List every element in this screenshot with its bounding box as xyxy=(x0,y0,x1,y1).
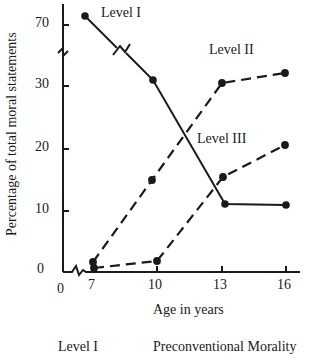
series-level-1 xyxy=(82,13,289,208)
y-tick-30: 30 xyxy=(35,76,49,92)
series-label-level-3: Level III xyxy=(197,131,246,147)
x-tick-0: 0 xyxy=(57,281,64,297)
series-level-2 xyxy=(90,70,288,265)
series-label-level-2: Level II xyxy=(209,42,254,58)
series-level-3 xyxy=(91,142,288,271)
y-tick-0: 0 xyxy=(37,261,44,277)
y-tick-20: 20 xyxy=(35,139,49,155)
x-tick-13: 13 xyxy=(213,277,227,293)
series-label-level-1: Level I xyxy=(101,5,141,21)
y-axis xyxy=(58,4,69,272)
y-tick-70: 70 xyxy=(35,15,49,31)
x-tick-7: 7 xyxy=(88,277,95,293)
y-axis-title: Percentage of total moral statements xyxy=(4,56,20,236)
x-tick-16: 16 xyxy=(277,277,291,293)
x-axis-title: Age in years xyxy=(153,302,224,318)
x-tick-10: 10 xyxy=(148,277,162,293)
y-tick-10: 10 xyxy=(35,201,49,217)
caption-term: Level I xyxy=(58,339,98,355)
caption-definition: Preconventional Morality xyxy=(153,339,296,355)
